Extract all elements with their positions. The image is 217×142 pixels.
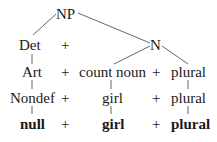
- node-art: Art: [22, 64, 42, 80]
- plus-sign: +: [61, 90, 69, 106]
- node-count-noun: count noun: [79, 64, 146, 80]
- plus-sign: +: [61, 116, 69, 132]
- plus-sign: +: [152, 116, 160, 132]
- syntax-tree-diagram: NP Det + N Art + count noun + plural Non…: [0, 0, 217, 142]
- node-plural: plural: [171, 90, 206, 106]
- node-nondef: Nondef: [10, 90, 55, 106]
- node-girl-surface: girl: [102, 116, 125, 132]
- node-null: null: [20, 116, 45, 132]
- plus-sign: +: [61, 64, 69, 80]
- plus-sign: +: [152, 90, 160, 106]
- node-det: Det: [19, 37, 41, 53]
- branch-np-n: [78, 13, 150, 43]
- branch-n-countnoun: [114, 46, 150, 64]
- branch-np-det: [33, 14, 56, 35]
- node-n: N: [150, 37, 161, 53]
- node-plural-surface: plural: [171, 116, 210, 132]
- branch-n-plural: [162, 46, 188, 64]
- node-np: NP: [56, 6, 75, 22]
- node-girl: girl: [102, 90, 123, 106]
- plus-sign: +: [152, 64, 160, 80]
- plus-sign: +: [61, 37, 69, 53]
- node-plural: plural: [171, 64, 206, 80]
